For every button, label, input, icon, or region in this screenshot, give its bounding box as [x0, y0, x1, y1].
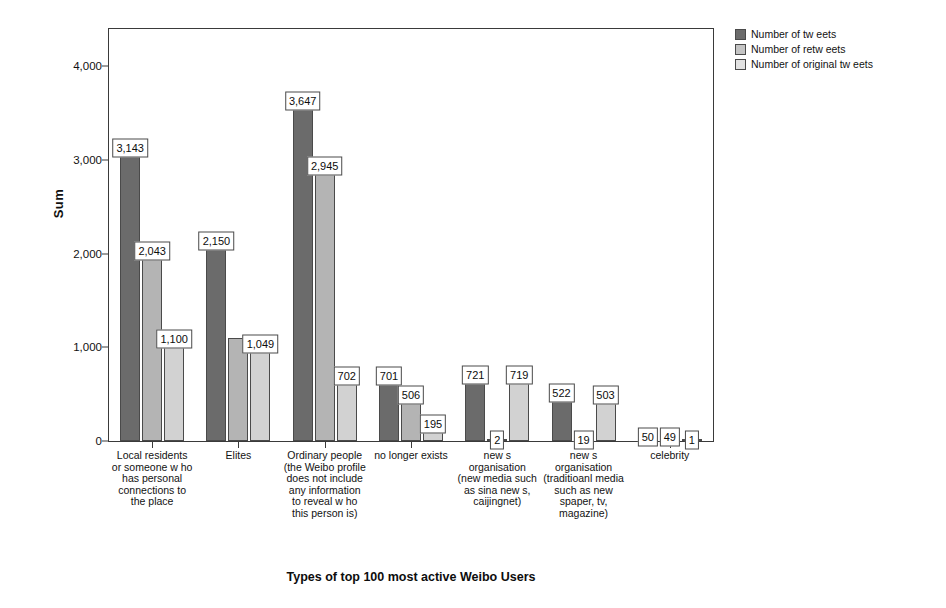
y-axis-tick-label: 0 — [40, 435, 102, 447]
bar-value-label: 2,945 — [307, 157, 343, 176]
bar-value-label: 702 — [334, 367, 360, 386]
bar[interactable]: 1,100 — [164, 338, 184, 441]
bar-value-label: 721 — [462, 365, 488, 384]
bar-value-label: 49 — [660, 428, 680, 447]
legend-swatch-icon — [735, 59, 746, 70]
bar-group: 3,1432,0431,100 — [109, 29, 195, 441]
bar-value-label: 522 — [548, 384, 574, 403]
bar-value-label: 701 — [376, 367, 402, 386]
bar-groups: 3,1432,0431,1002,1501,0493,6472,94570270… — [109, 29, 713, 441]
bar-value-label: 50 — [638, 428, 658, 447]
chart-legend: Number of tw eetsNumber of retw eetsNumb… — [735, 28, 873, 70]
bar-value-label: 2,043 — [134, 241, 170, 260]
bar[interactable]: 19 — [574, 439, 594, 441]
x-axis-tick — [109, 442, 195, 449]
x-axis-category-label: new s organisation (traditioanl media su… — [540, 450, 626, 519]
x-axis-category-label: no longer exists — [368, 450, 454, 462]
legend-swatch-icon — [735, 29, 746, 40]
bar[interactable]: 3,647 — [293, 100, 313, 441]
x-axis-title: Types of top 100 most active Weibo Users — [109, 570, 713, 584]
bar-value-label: 506 — [398, 385, 424, 404]
y-axis-tick-mark — [102, 253, 108, 254]
bar[interactable]: 1,049 — [250, 343, 270, 441]
bar[interactable]: 719 — [509, 374, 529, 441]
bar-value-label: 2 — [490, 431, 504, 450]
bar[interactable]: 3,143 — [120, 147, 140, 441]
bar-value-label: 2,150 — [199, 231, 235, 250]
legend-item[interactable]: Number of original tw eets — [735, 58, 873, 70]
bar[interactable]: 506 — [401, 394, 421, 441]
bar-group: 3,6472,945702 — [282, 29, 368, 441]
x-axis-category-label: Elites — [195, 450, 281, 462]
bar-value-label: 503 — [592, 385, 618, 404]
bar[interactable]: 701 — [379, 375, 399, 441]
y-axis-labels: 01,0002,0003,0004,000 — [0, 0, 102, 608]
legend-item[interactable]: Number of tw eets — [735, 28, 873, 40]
bar-value-label: 1,100 — [156, 330, 192, 349]
x-axis-category-label: Ordinary people (the Weibo profile does … — [282, 450, 368, 519]
y-axis-tick-label: 3,000 — [40, 154, 102, 166]
bar-group: 52219503 — [540, 29, 626, 441]
bar[interactable] — [228, 338, 248, 441]
bar-group: 50491 — [627, 29, 713, 441]
bar-value-label: 719 — [506, 365, 532, 384]
x-axis-tick — [195, 442, 281, 449]
y-axis-tick-mark — [102, 160, 108, 161]
bar[interactable]: 49 — [660, 436, 680, 441]
bar[interactable]: 1 — [682, 439, 702, 441]
bar-value-label: 1,049 — [243, 334, 279, 353]
bar-value-label: 3,143 — [112, 138, 148, 157]
x-axis-category-labels: Local residents or someone w ho has pers… — [109, 450, 713, 519]
bar-group: 701506195 — [368, 29, 454, 441]
bar[interactable]: 2 — [487, 439, 507, 441]
y-axis-tick-label: 2,000 — [40, 248, 102, 260]
legend-label: Number of retw eets — [751, 43, 846, 55]
x-axis-ticks — [109, 442, 713, 449]
legend-label: Number of tw eets — [751, 28, 836, 40]
bar-group: 7212719 — [454, 29, 540, 441]
bar-value-label: 3,647 — [285, 91, 321, 110]
y-axis-tick-label: 1,000 — [40, 341, 102, 353]
y-axis-tick-label: 4,000 — [40, 60, 102, 72]
legend-label: Number of original tw eets — [751, 58, 873, 70]
x-axis-category-label: celebrity — [627, 450, 713, 462]
legend-item[interactable]: Number of retw eets — [735, 43, 873, 55]
bar-group: 2,1501,049 — [195, 29, 281, 441]
bar[interactable]: 50 — [638, 436, 658, 441]
bar-value-label: 1 — [685, 431, 699, 450]
y-axis-tick-mark — [102, 66, 108, 67]
x-axis-tick — [368, 442, 454, 449]
bar[interactable]: 2,945 — [315, 165, 335, 441]
bar[interactable]: 522 — [552, 392, 572, 441]
y-axis-tick-mark — [102, 441, 108, 442]
x-axis-category-label: Local residents or someone w ho has pers… — [109, 450, 195, 508]
legend-swatch-icon — [735, 44, 746, 55]
bar[interactable]: 195 — [423, 423, 443, 441]
x-axis-tick — [282, 442, 368, 449]
bar[interactable]: 2,150 — [206, 240, 226, 441]
bar[interactable]: 721 — [465, 374, 485, 442]
x-axis-category-label: new s organisation (new media such as si… — [454, 450, 540, 508]
bar-value-label: 19 — [573, 431, 593, 450]
bar[interactable]: 702 — [337, 375, 357, 441]
bar-chart: Sum 01,0002,0003,0004,000 3,1432,0431,10… — [0, 0, 946, 608]
bar[interactable]: 503 — [596, 394, 616, 441]
y-axis-tick-mark — [102, 347, 108, 348]
bar-value-label: 195 — [420, 414, 446, 433]
